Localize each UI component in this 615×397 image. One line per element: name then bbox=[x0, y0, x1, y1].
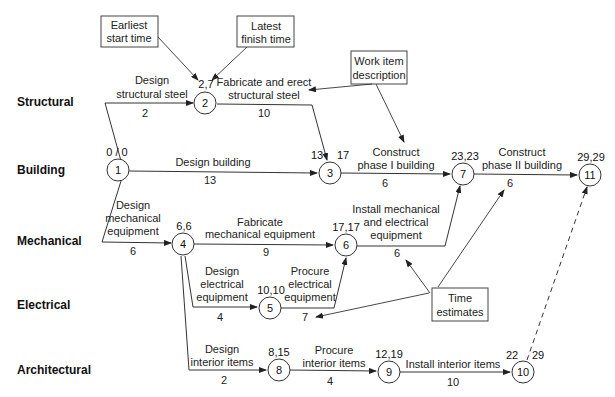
svg-text:5: 5 bbox=[267, 302, 273, 314]
activity-desc: mechanical equipment bbox=[205, 228, 315, 240]
activity-duration: 10 bbox=[447, 376, 459, 388]
node-10: 10 22 29 bbox=[506, 349, 544, 383]
node-7: 7 23,23 bbox=[451, 150, 479, 185]
node-times-left: 13 bbox=[311, 149, 323, 161]
edge-10-11-dummy bbox=[527, 187, 587, 360]
nodes: 1 0 / 0 2 2,7 3 13 17 4 6,6 5 10,10 6 17… bbox=[106, 78, 604, 383]
activity-desc: Design bbox=[116, 199, 150, 211]
activity-desc: Design building bbox=[175, 156, 250, 168]
activity-desc: Install mechanical bbox=[352, 203, 439, 215]
activity-desc: Design bbox=[135, 74, 169, 86]
activity-desc: equipment bbox=[284, 291, 335, 303]
activity-desc: mechanical bbox=[105, 212, 161, 224]
activity-desc: structural steel bbox=[228, 89, 300, 101]
node-8: 8 8,15 bbox=[268, 346, 290, 381]
svg-text:7: 7 bbox=[460, 168, 466, 180]
svg-text:start time: start time bbox=[106, 32, 151, 44]
callout-latest-finish: Latest finish time bbox=[212, 16, 294, 80]
activity-desc: equipment bbox=[196, 291, 247, 303]
activity-desc: Procure bbox=[291, 265, 330, 277]
node-times-right: 17 bbox=[337, 149, 349, 161]
edge-8-9 bbox=[290, 370, 376, 371]
svg-text:4: 4 bbox=[180, 238, 186, 250]
activity-desc: Fabricate and erect bbox=[217, 76, 312, 88]
activity-duration: 6 bbox=[130, 245, 136, 257]
activity-duration: 4 bbox=[327, 375, 333, 387]
svg-text:2: 2 bbox=[202, 97, 208, 109]
edge-4-6 bbox=[194, 244, 333, 245]
node-times: 0 / 0 bbox=[106, 146, 127, 158]
node-times: 17,17 bbox=[332, 221, 360, 233]
node-times: 8,15 bbox=[268, 346, 289, 358]
activity-desc: Fabricate bbox=[237, 216, 283, 228]
node-times: 2,7 bbox=[198, 78, 213, 90]
callout-earliest-start: Earliest start time bbox=[101, 16, 198, 80]
activity-duration: 10 bbox=[258, 107, 270, 119]
lane-mechanical: Mechanical bbox=[17, 234, 82, 248]
activity-desc: electrical bbox=[200, 278, 243, 290]
lane-architectural: Architectural bbox=[17, 363, 91, 377]
activity-duration: 13 bbox=[204, 174, 216, 186]
node-9: 9 12,19 bbox=[375, 348, 403, 383]
activity-duration: 6 bbox=[382, 177, 388, 189]
svg-text:Latest: Latest bbox=[251, 20, 281, 32]
activity-desc: and electrical bbox=[364, 216, 429, 228]
node-5: 5 10,10 bbox=[257, 284, 285, 319]
activity-duration: 9 bbox=[263, 246, 269, 258]
activity-duration: 2 bbox=[142, 107, 148, 119]
node-1: 1 0 / 0 bbox=[106, 146, 129, 181]
svg-text:Time: Time bbox=[448, 292, 472, 304]
svg-text:10: 10 bbox=[517, 366, 529, 378]
svg-text:finish time: finish time bbox=[241, 33, 291, 45]
svg-text:8: 8 bbox=[276, 364, 282, 376]
svg-text:Work item: Work item bbox=[354, 55, 403, 67]
lane-electrical: Electrical bbox=[17, 298, 70, 312]
node-times: 6,6 bbox=[176, 220, 191, 232]
edge-3-7 bbox=[341, 173, 450, 174]
activity-desc: interior items bbox=[191, 356, 254, 368]
activity-duration: 4 bbox=[217, 311, 223, 323]
activity-desc: phase II building bbox=[482, 159, 562, 171]
activity-desc: Procure bbox=[315, 344, 354, 356]
node-2: 2 2,7 bbox=[194, 78, 216, 114]
activity-desc: phase I building bbox=[357, 159, 434, 171]
node-times: 23,23 bbox=[451, 150, 479, 162]
activity-desc: interior items bbox=[303, 357, 366, 369]
activity-desc: Construct bbox=[498, 146, 545, 158]
svg-text:estimates: estimates bbox=[436, 306, 484, 318]
node-6: 6 17,17 bbox=[332, 221, 360, 256]
activity-desc: Construct bbox=[372, 146, 419, 158]
activity-desc: Design bbox=[205, 343, 239, 355]
node-11: 11 29,29 bbox=[577, 151, 605, 186]
edge-7-11 bbox=[474, 174, 577, 175]
activity-duration: 2 bbox=[221, 374, 227, 386]
svg-text:11: 11 bbox=[584, 169, 595, 181]
activity-desc: equipment bbox=[370, 229, 421, 241]
lane-building: Building bbox=[17, 163, 65, 177]
node-times-left: 22 bbox=[506, 349, 518, 361]
activity-desc: Install interior items bbox=[406, 358, 501, 370]
svg-text:3: 3 bbox=[327, 167, 333, 179]
activity-desc: electrical bbox=[288, 278, 331, 290]
activity-desc: equipment bbox=[107, 225, 158, 237]
svg-text:6: 6 bbox=[343, 239, 349, 251]
node-3: 3 13 17 bbox=[311, 149, 349, 184]
network-diagram: Structural Building Mechanical Electrica… bbox=[0, 0, 615, 397]
svg-text:Earliest: Earliest bbox=[111, 19, 148, 31]
lane-structural: Structural bbox=[17, 95, 74, 109]
node-times: 12,19 bbox=[375, 348, 403, 360]
activity-duration: 6 bbox=[394, 247, 400, 259]
node-times: 10,10 bbox=[257, 284, 285, 296]
activity-desc: Design bbox=[205, 265, 239, 277]
callout-work-item: Work item description bbox=[309, 51, 407, 142]
svg-text:1: 1 bbox=[115, 164, 121, 176]
node-times: 29,29 bbox=[577, 151, 605, 163]
activity-duration: 6 bbox=[507, 177, 513, 189]
activity-duration: 7 bbox=[302, 311, 308, 323]
node-times-right: 29 bbox=[532, 349, 544, 361]
activity-desc: structural steel bbox=[116, 88, 188, 100]
node-4: 4 6,6 bbox=[172, 220, 194, 255]
svg-text:description: description bbox=[352, 69, 405, 81]
svg-text:9: 9 bbox=[386, 366, 392, 378]
edge-1-3 bbox=[129, 171, 317, 173]
